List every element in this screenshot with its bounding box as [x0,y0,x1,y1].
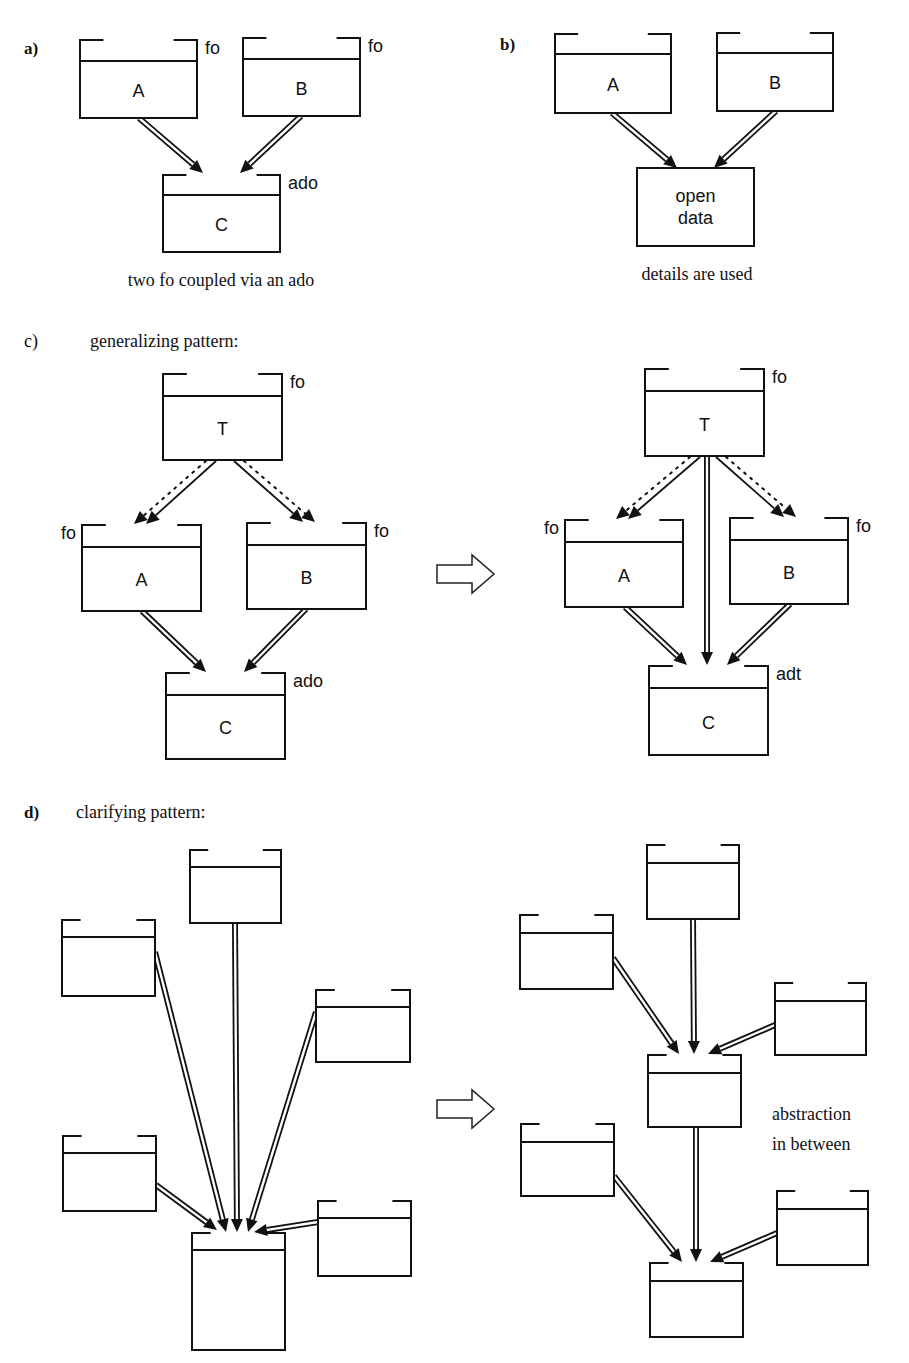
arrowhead-icon [217,1218,229,1232]
module-name: C [219,718,232,738]
panel-c-left-module-A: Afo [61,523,201,611]
module-name: B [295,79,307,99]
panel-c-right-thin-arrow [716,457,784,517]
panel-a-module-B: Bfo [243,36,383,116]
module-name: T [699,415,710,435]
module-kind-tag: fo [374,521,389,541]
module-lid-right [342,523,366,545]
arrowhead-icon [246,1218,257,1232]
module-kind-tag: ado [288,173,318,193]
panel-a-module-A: Afo [80,38,220,118]
panel-c-left-thin-arrow [146,461,216,524]
panel-d-right-module-r1 [775,983,866,1055]
panel-d-right-module-l2 [521,1124,614,1196]
module-lid-right [659,520,683,542]
module-lid-left [521,1124,540,1142]
module-lid-right [261,673,285,695]
module-lid-left [243,38,266,59]
module-lid-left [163,374,187,396]
panel-c-left-double-arrow [244,609,306,672]
module-lid-left [192,1233,211,1250]
panel-c-right-module-T: Tfo [645,367,787,456]
module-lid-right [595,1124,614,1142]
panel-d-right-double-arrow [688,919,700,1054]
module-lid-left [717,33,740,53]
panel-b-caption: details are used [642,264,753,284]
module-lid-left [649,666,673,688]
module-lid-left [316,990,335,1007]
arrowhead-icon [782,504,796,517]
module-name: C [702,713,715,733]
module-lid-left [520,915,539,933]
panel-d-left-module-bottom [192,1233,285,1350]
module-lid-right [724,1263,743,1281]
arrowhead-icon [690,1249,702,1262]
panel-c-right-thin-arrow [628,457,700,519]
module-lid-right [594,915,613,933]
module-name: B [783,563,795,583]
module-name: T [217,419,228,439]
module-name: A [132,81,144,101]
module-kind-tag: ado [293,671,323,691]
panel-b-module-A: A [555,34,671,113]
module-lid-right [848,983,866,1001]
module-kind-tag: fo [290,372,305,392]
boxes-layer: AfoBfoCadoABopendataTfoAfoBfoCadoTfoAfoB… [61,33,871,1350]
abstraction-note-line1: abstraction [772,1104,851,1124]
module-lid-left [190,850,208,867]
panel-a-module-C: Cado [163,173,318,252]
module-lid-right [257,175,280,195]
module-lid-right [263,850,281,867]
panel-d-right-module-l1 [520,915,613,989]
module-kind-tag: fo [856,516,871,536]
panel-c-right-module-B: Bfo [730,516,871,604]
panel-c-right-module-A: Afo [544,518,683,607]
panel-d-left-module-r1 [316,990,410,1062]
panel-d-right-double-arrow [613,958,679,1054]
panel-d-left-module-r2 [318,1201,411,1276]
panel-c-left-thin-arrow [234,461,303,522]
panel-a-label: a) [24,39,38,58]
panel-c-left-dotted-arrow [244,461,315,522]
module-lid-right [824,518,848,540]
software-architecture-patterns-diagram: a) b) two fo coupled via an ado details … [0,0,909,1363]
panel-a-caption: two fo coupled via an ado [128,270,314,290]
module-lid-right [177,525,201,547]
panel-d-right-module-top [647,845,739,919]
module-lid-right [391,990,410,1007]
module-lid-left [775,983,793,1001]
panel-d-right-double-arrow [710,1233,777,1262]
panel-b-double-arrow [714,111,776,168]
module-kind-tag: fo [205,38,220,58]
module-lid-left [62,920,81,937]
panel-d-left-module-top [190,850,281,923]
panel-d-title: clarifying pattern: [76,802,205,822]
panel-a-double-arrow [139,118,203,173]
module-lid-right [337,38,360,59]
open-data-label: open [675,186,715,206]
panel-c-transform-arrow-icon [437,555,494,593]
module-name: A [618,566,630,586]
panel-d-right-module-bottom [650,1263,743,1337]
panel-d-right-module-r2 [777,1191,868,1265]
module-kind-tag: fo [61,523,76,543]
module-lid-left [80,40,103,61]
module-kind-tag: fo [544,518,559,538]
module-lid-right [721,845,739,863]
module-lid-left [63,1136,82,1153]
panel-d-left-double-arrow [231,923,243,1232]
module-lid-left [777,1191,795,1209]
panel-c-title: generalizing pattern: [90,331,238,351]
module-lid-left [647,845,665,863]
panel-c-left-module-B: Bfo [247,521,389,609]
panel-d-right-double-arrow [708,1025,775,1054]
panel-b-double-arrow [612,113,677,168]
panel-d-left-double-arrow [156,1185,217,1230]
module-name: A [135,570,147,590]
open-data-label: data [678,208,714,228]
panel-c-left-module-T: Tfo [163,372,305,460]
panel-d-left-module-l1 [62,920,155,996]
panel-c-right-double-arrow [625,607,687,665]
module-lid-right [392,1201,411,1218]
module-lid-left [247,523,271,545]
